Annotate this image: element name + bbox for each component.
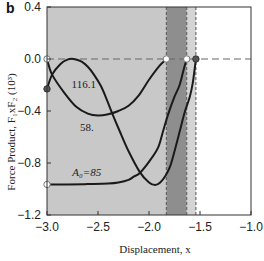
curve-label-1: 58. — [80, 121, 94, 133]
y-tick-label: 0.4 — [24, 0, 41, 14]
series-0-end-marker — [193, 56, 199, 62]
y-tick-label: 0.0 — [24, 52, 41, 66]
curve-label-0: 116.1 — [72, 78, 96, 90]
x-tick-label: −1.5 — [188, 220, 212, 234]
x-tick-label: −2.0 — [137, 220, 161, 234]
curve-label-2: A₀=85 — [71, 166, 101, 178]
x-axis-label: Displacement, x — [119, 243, 191, 255]
y-tick-label: −0.4 — [17, 104, 41, 118]
y-tick-label: −0.8 — [17, 156, 41, 170]
shaded-region-2 — [187, 7, 196, 215]
series-1-end-marker — [163, 56, 169, 62]
y-axis-label: Force Product, F₁xF₂ (10³) — [5, 73, 18, 191]
x-tick-label: −1.0 — [239, 220, 263, 234]
force-product-chart: b Displacement, x Force Product, F₁xF₂ (… — [0, 0, 264, 261]
x-tick-label: −2.5 — [86, 220, 110, 234]
series-2-end-marker — [184, 56, 190, 62]
y-tick-label: −1.2 — [17, 208, 41, 222]
x-tick-label: −3.0 — [35, 220, 59, 234]
panel-label: b — [6, 0, 15, 16]
